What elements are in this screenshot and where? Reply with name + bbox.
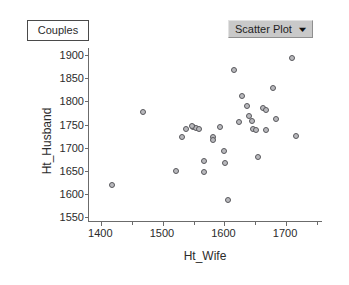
x-axis-tick-label: 1400 xyxy=(77,228,123,239)
data-point[interactable] xyxy=(217,124,223,130)
y-axis-tick xyxy=(85,194,89,195)
y-axis-tick-label: 1900 xyxy=(34,49,84,60)
y-axis-tick-label: 1850 xyxy=(34,73,84,84)
plot-type-dropdown-label: Scatter Plot xyxy=(235,24,292,35)
y-axis-tick xyxy=(85,171,89,172)
x-axis-tick-minor xyxy=(317,221,318,225)
data-point[interactable] xyxy=(109,182,115,188)
data-point[interactable] xyxy=(140,109,146,115)
data-point[interactable] xyxy=(263,127,269,133)
data-point[interactable] xyxy=(270,85,276,91)
y-axis-tick xyxy=(85,101,89,102)
x-axis-tick-major xyxy=(163,221,164,226)
x-axis-tick-major xyxy=(224,221,225,226)
x-axis-tick-major xyxy=(286,221,287,226)
data-point[interactable] xyxy=(253,127,259,133)
data-point[interactable] xyxy=(210,137,216,143)
x-axis-tick-labels: 1400150016001700 xyxy=(88,228,328,242)
y-axis-tick xyxy=(85,55,89,56)
data-point[interactable] xyxy=(236,119,242,125)
data-point[interactable] xyxy=(249,118,255,124)
y-axis-tick-label: 1600 xyxy=(34,189,84,200)
x-axis-tick-major xyxy=(101,221,102,226)
data-point[interactable] xyxy=(196,126,202,132)
x-axis-tick-minor xyxy=(132,221,133,225)
x-axis-title: Ht_Wife xyxy=(88,250,322,262)
data-point[interactable] xyxy=(231,67,237,73)
y-axis-tick-label: 1700 xyxy=(34,142,84,153)
data-point[interactable] xyxy=(263,107,269,113)
x-axis-tick-label: 1700 xyxy=(262,228,308,239)
data-point[interactable] xyxy=(221,148,227,154)
dataset-title-box: Couples xyxy=(27,20,89,41)
data-point[interactable] xyxy=(239,93,245,99)
y-axis-tick xyxy=(85,78,89,79)
y-axis-tick-label: 1800 xyxy=(34,96,84,107)
chevron-down-icon: ▼ xyxy=(296,25,308,33)
x-axis-tick-minor xyxy=(194,221,195,225)
data-point[interactable] xyxy=(201,169,207,175)
plot-canvas[interactable] xyxy=(88,48,322,222)
y-axis-tick-label: 1750 xyxy=(34,119,84,130)
y-axis-tick xyxy=(85,148,89,149)
data-point[interactable] xyxy=(273,116,279,122)
y-axis-tick-labels: 15501600165017001750180018501900 xyxy=(34,48,84,222)
data-point[interactable] xyxy=(225,197,231,203)
dataset-title-label: Couples xyxy=(38,25,78,36)
x-axis-tick-label: 1600 xyxy=(200,228,246,239)
y-axis-tick-label: 1650 xyxy=(34,165,84,176)
data-point[interactable] xyxy=(244,103,250,109)
data-point[interactable] xyxy=(293,133,299,139)
data-point[interactable] xyxy=(222,160,228,166)
data-point[interactable] xyxy=(201,158,207,164)
scatter-plot-window: Couples Scatter Plot ▼ Ht_Husband 155016… xyxy=(0,0,349,285)
x-axis-tick-minor xyxy=(255,221,256,225)
data-point[interactable] xyxy=(173,168,179,174)
y-axis-tick xyxy=(85,217,89,218)
data-point[interactable] xyxy=(255,154,261,160)
y-axis-tick-label: 1550 xyxy=(34,212,84,223)
y-axis-tick xyxy=(85,125,89,126)
data-point[interactable] xyxy=(289,55,295,61)
data-point[interactable] xyxy=(179,134,185,140)
plot-type-dropdown[interactable]: Scatter Plot ▼ xyxy=(228,20,313,38)
x-axis-tick-label: 1500 xyxy=(139,228,185,239)
data-point[interactable] xyxy=(183,126,189,132)
